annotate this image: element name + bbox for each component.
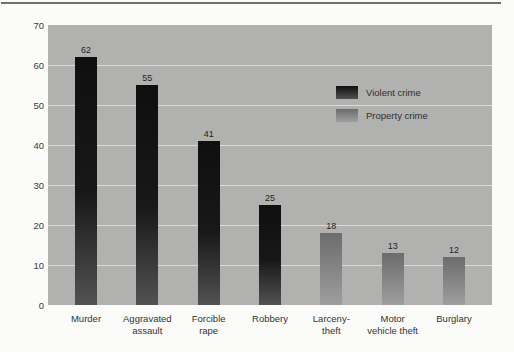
bar-aggravated-assault — [136, 85, 158, 305]
bar-larceny-theft — [320, 233, 342, 305]
bar-value-label: 13 — [376, 241, 410, 251]
legend-swatch-violent — [336, 86, 358, 99]
bar-burglary — [443, 257, 465, 305]
crime-rates-figure: Violent crimeProperty crime 625541251813… — [0, 0, 514, 352]
y-axis-tick-label: 60 — [0, 60, 44, 71]
bar-value-label: 12 — [437, 245, 471, 255]
gridline-30 — [48, 185, 492, 186]
bar-forcible-rape — [198, 141, 220, 305]
bar-value-label: 41 — [192, 129, 226, 139]
y-axis-tick-label: 10 — [0, 260, 44, 271]
legend-item-violent: Violent crime — [336, 86, 428, 99]
legend-item-property: Property crime — [336, 109, 428, 122]
legend-swatch-property — [336, 109, 358, 122]
y-axis-tick-label: 30 — [0, 180, 44, 191]
y-axis-tick-label: 50 — [0, 100, 44, 111]
bar-value-label: 18 — [314, 221, 348, 231]
crime-bar-chart: Violent crimeProperty crime 625541251813… — [0, 0, 514, 352]
bar-murder — [75, 57, 97, 305]
bar-value-label: 62 — [69, 45, 103, 55]
y-axis-tick-label: 20 — [0, 220, 44, 231]
chart-legend: Violent crimeProperty crime — [336, 86, 428, 132]
y-axis-tick-label: 0 — [0, 300, 44, 311]
plot-area: Violent crimeProperty crime 625541251813… — [48, 25, 492, 305]
x-axis-category-label-line: rape — [161, 325, 257, 337]
gridline-40 — [48, 145, 492, 146]
y-axis-tick-label: 40 — [0, 140, 44, 151]
bar-value-label: 25 — [253, 193, 287, 203]
bar-robbery — [259, 205, 281, 305]
legend-label: Property crime — [366, 109, 428, 122]
x-axis-category-label: Burglary — [406, 313, 502, 325]
legend-label: Violent crime — [366, 86, 421, 99]
y-axis-tick-label: 70 — [0, 20, 44, 31]
x-axis-category-label-line: Burglary — [406, 313, 502, 325]
bar-motor-vehicle-theft — [382, 253, 404, 305]
bar-value-label: 55 — [130, 73, 164, 83]
gridline-50 — [48, 105, 492, 106]
gridline-60 — [48, 65, 492, 66]
x-axis-category-label-line: vehicle theft — [345, 325, 441, 337]
